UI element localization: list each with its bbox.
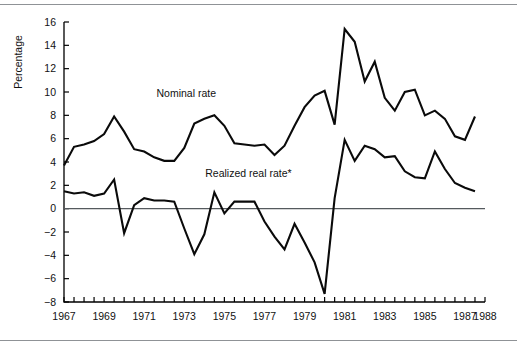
figure-container: 1614121086420−2−4−6−8Percentage196719691… bbox=[0, 0, 517, 353]
x-tick-label-1969: 1969 bbox=[92, 310, 116, 322]
series-line-nominal-rate bbox=[64, 29, 475, 166]
series-line-realized-real-rate bbox=[64, 140, 475, 294]
y-tick-label-4: 4 bbox=[50, 156, 56, 168]
y-tick-label-neg4: −4 bbox=[44, 249, 56, 261]
line-chart: 1614121086420−2−4−6−8Percentage196719691… bbox=[0, 0, 517, 353]
y-tick-label-12: 12 bbox=[44, 62, 56, 74]
x-tick-label-1983: 1983 bbox=[373, 310, 397, 322]
y-tick-label-8: 8 bbox=[50, 109, 56, 121]
figure-top-rule bbox=[0, 4, 517, 5]
y-axis-title: Percentage bbox=[12, 35, 24, 89]
x-tick-label-1981: 1981 bbox=[333, 310, 357, 322]
y-tick-label-6: 6 bbox=[50, 132, 56, 144]
x-tick-label-1967: 1967 bbox=[52, 310, 76, 322]
x-tick-label-1975: 1975 bbox=[213, 310, 237, 322]
y-tick-label-10: 10 bbox=[44, 86, 56, 98]
y-tick-label-0: 0 bbox=[50, 202, 56, 214]
series-annotation-realized-real-rate: Realized real rate* bbox=[205, 167, 291, 179]
y-tick-label-neg8: −8 bbox=[44, 296, 56, 308]
series-annotation-nominal-rate: Nominal rate bbox=[157, 87, 217, 99]
y-tick-label-16: 16 bbox=[44, 16, 56, 28]
x-tick-label-1985: 1985 bbox=[413, 310, 437, 322]
y-tick-label-14: 14 bbox=[44, 39, 56, 51]
y-tick-label-neg2: −2 bbox=[44, 226, 56, 238]
figure-bottom-rule bbox=[0, 340, 517, 341]
x-tick-label-1973: 1973 bbox=[173, 310, 197, 322]
axis-spine bbox=[64, 22, 485, 302]
x-tick-label-1979: 1979 bbox=[293, 310, 317, 322]
y-tick-label-neg6: −6 bbox=[44, 272, 56, 284]
x-tick-label-1971: 1971 bbox=[133, 310, 157, 322]
x-tick-label-1977: 1977 bbox=[253, 310, 277, 322]
x-tick-label-1988: 1988 bbox=[473, 310, 497, 322]
y-tick-label-2: 2 bbox=[50, 179, 56, 191]
